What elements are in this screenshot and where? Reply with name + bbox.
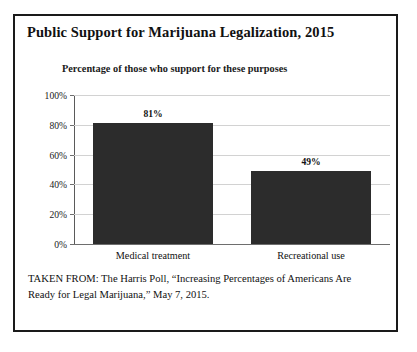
bar-value-label: 81% bbox=[143, 108, 162, 119]
page-title: Public Support for Marijuana Legalizatio… bbox=[27, 24, 387, 41]
source-caption: TAKEN FROM: The Harris Poll, “Increasing… bbox=[28, 271, 380, 302]
y-tick-label: 40% bbox=[49, 179, 67, 190]
gridline-100 bbox=[74, 95, 390, 96]
chart-subtitle: Percentage of those who support for thes… bbox=[62, 63, 392, 74]
y-tick-mark bbox=[70, 184, 74, 185]
y-tick-label: 100% bbox=[45, 90, 67, 101]
gridline-0 bbox=[74, 244, 390, 245]
chart-plot-area: 0%20%40%60%80%100% 81%49% Medical treatm… bbox=[74, 95, 390, 244]
y-tick-label: 60% bbox=[49, 149, 67, 160]
y-tick-label: 20% bbox=[49, 209, 67, 220]
y-tick-label: 0% bbox=[54, 239, 67, 250]
y-tick-mark bbox=[70, 155, 74, 156]
y-tick-mark bbox=[70, 244, 74, 245]
x-tick-label: Medical treatment bbox=[116, 250, 190, 261]
y-tick-label: 80% bbox=[49, 119, 67, 130]
y-axis-line bbox=[74, 95, 75, 244]
bar-recreational-use bbox=[251, 171, 372, 244]
y-tick-mark bbox=[70, 95, 74, 96]
bar-medical-treatment bbox=[93, 123, 214, 244]
y-tick-mark bbox=[70, 214, 74, 215]
x-tick-label: Recreational use bbox=[277, 250, 345, 261]
y-tick-mark bbox=[70, 125, 74, 126]
bar-value-label: 49% bbox=[301, 156, 320, 167]
figure-frame: Public Support for Marijuana Legalizatio… bbox=[13, 14, 398, 332]
